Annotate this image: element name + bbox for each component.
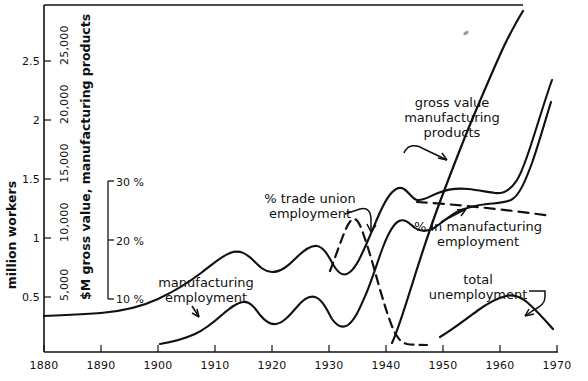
y-axis-workers-ticks [44, 61, 51, 297]
chart-figure: 1880 1890 1900 1910 1920 1930 1940 1950 … [0, 0, 588, 381]
annotation-line: % in manufacturing [414, 219, 542, 234]
percent-axis-tick-labels: 30 % 20 % 10 % [116, 176, 144, 306]
annotation-line: unemployment [429, 287, 528, 302]
grossvalue-tick-label: 25,000 [58, 25, 71, 65]
annotation-line: products [424, 125, 481, 140]
figure-caption [4, 370, 584, 381]
annotation-manufacturing-employment: manufacturing employment [158, 275, 254, 305]
y-tick-label: 0.5 [22, 291, 40, 304]
annotation-line: gross value [415, 95, 489, 110]
grossvalue-tick-label: 10,000 [58, 202, 71, 242]
annotation-line: manufacturing [158, 275, 254, 290]
annotation-total-unemployment: total unemployment [429, 272, 528, 302]
annotation-arrow-manufacturing-employment [192, 306, 199, 317]
percent-tick-label: 20 % [116, 235, 144, 248]
annotation-line: employment [269, 206, 351, 221]
y-axis-workers-tick-labels: 0.5 1 1.5 2 2.5 [22, 55, 40, 304]
percent-tick-label: 10 % [116, 293, 144, 306]
y-tick-label: 2.5 [22, 55, 40, 68]
y-axis-workers-title: million workers [4, 181, 19, 289]
annotation-line: % trade union [264, 191, 356, 206]
annotation-line: employment [437, 234, 519, 249]
y-axis-grossvalue-tick-labels: 5,000 10,000 15,000 20,000 25,000 [58, 25, 71, 301]
x-axis-ticks [44, 345, 557, 352]
grossvalue-tick-label: 5,000 [58, 269, 71, 302]
annotation-line: manufacturing [404, 110, 500, 125]
annotation-gross-value-manufacturing-products: gross value manufacturing products [404, 95, 500, 140]
annotation-pct-in-manufacturing-employment: % in manufacturing employment [414, 219, 542, 249]
y-tick-label: 1 [33, 232, 40, 245]
annotation-line: employment [165, 290, 247, 305]
scan-speck [463, 30, 470, 36]
annotation-arrow-gross-value [404, 146, 447, 160]
y-axis-grossvalue-title: $M gross value, manufacturing products [78, 14, 93, 300]
percent-axis [108, 181, 114, 299]
y-tick-label: 2 [33, 114, 40, 127]
y-tick-label: 1.5 [22, 173, 40, 186]
grossvalue-tick-label: 20,000 [58, 84, 71, 124]
annotation-line: total [463, 272, 493, 287]
annotation-pct-trade-union-employment: % trade union employment [264, 191, 356, 221]
percent-tick-label: 30 % [116, 176, 144, 189]
grossvalue-tick-label: 15,000 [58, 143, 71, 183]
chart-canvas: 1880 1890 1900 1910 1920 1930 1940 1950 … [0, 0, 588, 381]
